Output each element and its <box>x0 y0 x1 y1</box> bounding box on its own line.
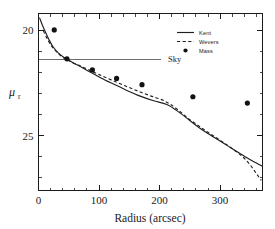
y-axis-title-base: μ <box>8 85 15 99</box>
y-axis-ticks <box>39 30 263 178</box>
x-axis-ticks <box>39 14 257 191</box>
series-line-wevers <box>43 31 261 181</box>
x-tick-label: 100 <box>91 194 108 206</box>
x-axis-tick-labels: 0100200300 <box>36 194 229 206</box>
data-point-mass <box>90 67 95 72</box>
y-tick-label: 25 <box>23 130 35 142</box>
surface-brightness-profile-figure: Sky 0100200300 2025 Radius (arcsec) μ r … <box>0 0 275 229</box>
data-point-mass <box>52 27 57 32</box>
legend: Kent Wevers Mass <box>177 30 219 54</box>
x-tick-label: 300 <box>212 194 229 206</box>
y-tick-label: 20 <box>23 24 35 36</box>
legend-entry-wevers: Wevers <box>177 39 219 45</box>
data-point-mass <box>245 100 250 105</box>
data-point-mass <box>64 56 69 61</box>
data-series-group <box>40 18 263 180</box>
sky-label: Sky <box>168 54 182 64</box>
x-tick-label: 0 <box>36 194 42 206</box>
data-point-mass <box>139 82 144 87</box>
y-axis-tick-labels: 2025 <box>23 24 35 141</box>
legend-label-kent: Kent <box>199 30 211 36</box>
x-axis-title: Radius (arcsec) <box>114 212 185 225</box>
legend-label-mass: Mass <box>199 48 213 54</box>
data-point-mass <box>190 94 195 99</box>
y-axis-title-subscript: r <box>18 92 21 101</box>
plot-frame-box <box>39 14 263 191</box>
sky-annotation-group: Sky <box>39 54 183 64</box>
y-axis-title: μ r <box>8 85 21 101</box>
legend-entry-mass: Mass <box>183 48 213 54</box>
data-point-mass <box>114 76 119 81</box>
legend-entry-kent: Kent <box>177 30 211 36</box>
legend-swatch-mass <box>183 48 187 52</box>
axis-frame <box>39 14 263 191</box>
plot-canvas: Sky 0100200300 2025 Radius (arcsec) μ r … <box>0 0 275 229</box>
series-line-kent <box>40 18 263 166</box>
x-tick-label: 200 <box>151 194 168 206</box>
legend-label-wevers: Wevers <box>199 39 219 45</box>
